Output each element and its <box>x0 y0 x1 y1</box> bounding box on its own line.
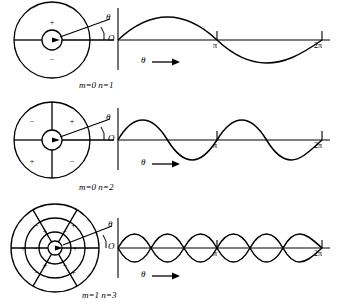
tick-label-pi-3: π <box>213 249 217 258</box>
disk-inner-sign-4: − <box>33 244 38 253</box>
wave-axes-1 <box>118 8 330 70</box>
mode-label-1: m=0 n=1 <box>79 80 113 90</box>
wave-axes-3 <box>118 218 330 278</box>
theta-direction-arrow-1 <box>152 59 180 66</box>
tick-label-2pi-3: 2π <box>314 249 322 258</box>
disk-sign-minus: − <box>50 55 55 64</box>
theta-symbol-1: θ <box>106 12 110 22</box>
disk-outer-sign-1: − <box>85 244 90 253</box>
nodal-disk-1 <box>14 2 114 78</box>
origin-label-1: O <box>108 33 115 43</box>
disk-inner-sign-6: − <box>63 261 68 270</box>
theta-symbol-2: θ <box>106 112 110 122</box>
axis-arrow-label-2: θ <box>141 157 145 167</box>
origin-label-2: O <box>108 133 115 143</box>
disk-outer-sign-2: + <box>71 221 76 230</box>
disk-inner-sign-3: + <box>43 227 48 236</box>
mode-label-2: m=0 n=2 <box>79 182 113 192</box>
mode-row-1: + − θ O θ π 2π m=0 n=1 <box>0 0 340 95</box>
disk-sign-bl: + <box>30 157 35 166</box>
disk-sign-br: − <box>70 157 75 166</box>
mode-row-3: − + − + − + + − + − + − <box>0 200 340 308</box>
axis-arrow-label-3: θ <box>141 269 145 279</box>
disk-inner-sign-2: − <box>63 227 68 236</box>
tick-label-2pi-2: 2π <box>314 141 322 150</box>
disk-outer-sign-3: − <box>34 221 39 230</box>
origin-label-3: O <box>108 241 115 251</box>
disk-sign-plus: + <box>50 18 55 27</box>
theta-direction-arrow-3 <box>152 273 180 280</box>
nodal-disk-2 <box>14 102 114 178</box>
mode-row-3-graphics: − + − + − + + − + − + − <box>0 200 340 308</box>
disk-outer-sign-6: + <box>71 268 76 277</box>
theta-symbol-3: θ <box>108 219 112 229</box>
disk-inner-sign-5: + <box>43 261 48 270</box>
wave-axes-2 <box>118 108 330 170</box>
axis-arrow-label-1: θ <box>141 55 145 65</box>
tick-label-pi-2: π <box>213 141 217 150</box>
disk-inner-sign-1: + <box>73 244 78 253</box>
theta-direction-arrow-2 <box>152 161 180 168</box>
mode-label-3: m=1 n=3 <box>82 290 116 300</box>
tick-label-pi-1: π <box>213 41 217 50</box>
disk-outer-sign-5: − <box>34 268 39 277</box>
mode-row-1-graphics: + − <box>0 0 340 95</box>
mode-row-2-graphics: − + + − <box>0 98 340 198</box>
disk-sign-tl: − <box>30 117 35 126</box>
tick-label-2pi-1: 2π <box>314 41 322 50</box>
disk-outer-sign-4: + <box>21 244 26 253</box>
nodal-disk-3 <box>11 204 112 292</box>
vibrational-mode-figure: + − θ O θ π 2π m=0 n=1 <box>0 0 340 308</box>
mode-row-2: − + + − θ O θ π 2π m=0 n=2 <box>0 98 340 198</box>
disk-sign-tr: + <box>70 117 75 126</box>
